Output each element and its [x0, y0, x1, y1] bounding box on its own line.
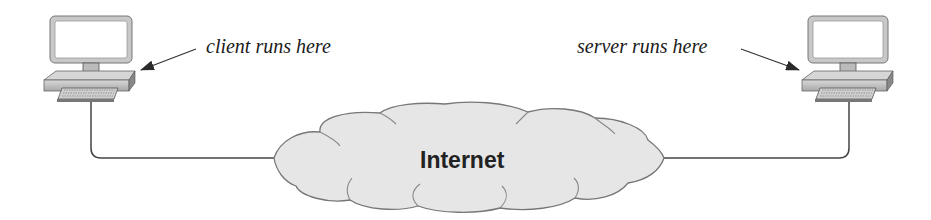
server-label: server runs here [577, 36, 707, 56]
client-computer-icon [44, 16, 135, 102]
diagram-canvas [0, 0, 931, 220]
client-server-diagram: client runs here server runs here Intern… [0, 0, 931, 220]
server-arrow-icon [741, 49, 799, 70]
client-label: client runs here [206, 36, 331, 56]
client-connection-line [91, 100, 274, 158]
server-computer-icon [802, 16, 893, 102]
internet-label: Internet [420, 149, 504, 172]
server-connection-line [663, 100, 849, 158]
client-arrow-icon [141, 49, 196, 70]
